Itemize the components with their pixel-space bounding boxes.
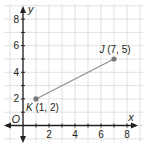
point-label-K: K (1, 2): [26, 102, 59, 113]
points: K (1, 2)J (7, 5): [26, 44, 131, 113]
y-axis-arrow-up-icon: [20, 6, 26, 13]
y-tick-label: 2: [13, 93, 19, 104]
x-tick-label: 8: [124, 129, 130, 140]
y-tick-label: 4: [13, 67, 19, 78]
x-axis-arrow-left-icon: [4, 123, 11, 129]
point-J: [111, 56, 116, 61]
point-K: [33, 96, 38, 101]
grid-lines: [4, 4, 143, 142]
x-axis-arrow-right-icon: [131, 123, 138, 129]
tick-labels: 24682468xyO: [11, 3, 134, 140]
y-axis-arrow-down-icon: [20, 136, 26, 143]
x-tick-label: 2: [46, 129, 52, 140]
x-tick-label: 4: [72, 129, 78, 140]
y-axis-label: y: [27, 3, 35, 15]
coordinate-plane: 24682468xyO K (1, 2)J (7, 5): [0, 0, 149, 146]
axes: [4, 6, 138, 143]
y-tick-label: 8: [13, 14, 19, 25]
x-tick-label: 6: [98, 129, 104, 140]
origin-label: O: [11, 113, 20, 125]
point-label-J: J (7, 5): [98, 44, 130, 55]
x-axis-label: x: [127, 111, 134, 123]
y-tick-label: 6: [13, 40, 19, 51]
